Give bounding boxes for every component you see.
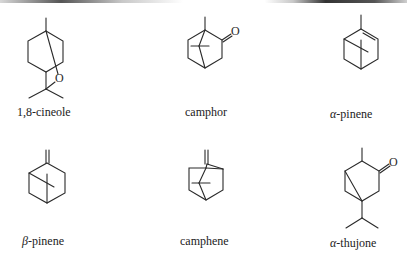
- structure-beta-pinene: [29, 150, 65, 203]
- compound-name: -pinene: [336, 107, 372, 121]
- structure-camphor: O: [188, 17, 240, 68]
- compound-label-camphene: camphene: [180, 234, 229, 249]
- compound-name: -thujone: [336, 236, 376, 250]
- compound-label-cineole: 1,8-cineole: [17, 105, 71, 120]
- oxygen-atom-label: O: [231, 24, 240, 38]
- compound-label-alpha-thujone: α-thujone: [330, 236, 376, 251]
- structures-canvas: O O: [0, 0, 407, 263]
- oxygen-atom-label: O: [389, 155, 398, 169]
- compound-label-alpha-pinene: α-pinene: [330, 107, 372, 122]
- oxygen-atom-label: O: [55, 71, 64, 85]
- compound-label-beta-pinene: β-pinene: [22, 234, 64, 249]
- structure-camphene: [189, 150, 223, 200]
- compound-name: -pinene: [28, 234, 64, 248]
- structure-alpha-thujone: O: [345, 148, 398, 228]
- structure-alpha-pinene: [344, 15, 378, 69]
- compound-label-camphor: camphor: [185, 105, 227, 120]
- structure-cineole: O: [28, 18, 64, 98]
